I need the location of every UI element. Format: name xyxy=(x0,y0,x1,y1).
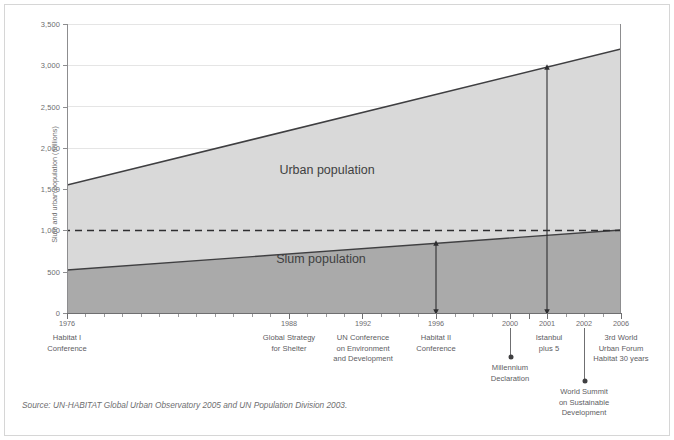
milestone-1988-line-1: Global Strategy xyxy=(263,333,315,344)
source-note: Source: UN-HABITAT Global Urban Observat… xyxy=(22,400,347,410)
y-tick-1500 xyxy=(63,189,67,190)
milestone-2006: 3rd World Urban Forum Habitat 30 years xyxy=(593,333,648,365)
slum-population-label: Slum population xyxy=(276,252,366,266)
callout-leader-2000 xyxy=(510,328,511,355)
x-tick-1981 xyxy=(159,314,160,317)
milestone-2006-line-3: Habitat 30 years xyxy=(593,354,648,365)
x-year-2000: 2000 xyxy=(502,319,518,328)
y-tick-3500 xyxy=(63,24,67,25)
milestone-1976: Habitat I Conference xyxy=(47,333,86,354)
urban-population-label: Urban population xyxy=(279,163,374,177)
x-tick-1980 xyxy=(141,314,142,317)
x-tick-1985 xyxy=(233,314,234,317)
callout-dot-2000 xyxy=(508,355,513,360)
x-tick-2005 xyxy=(603,314,604,317)
x-tick-1995 xyxy=(418,314,419,317)
x-tick-2003 xyxy=(566,314,567,317)
milestone-1992-line-2: on Environment xyxy=(333,344,393,355)
x-year-1976: 1976 xyxy=(59,319,75,328)
y-tick-2000 xyxy=(63,148,67,149)
y-axis-line xyxy=(67,24,68,314)
x-year-2001: 2001 xyxy=(539,319,555,328)
callout-2002-line-1: World Summit xyxy=(559,387,609,398)
callout-dot-2002 xyxy=(582,379,587,384)
x-tick-1990 xyxy=(326,314,327,317)
x-tick-1989 xyxy=(307,314,308,317)
milestone-1996: Habitat II Conference xyxy=(416,333,455,354)
milestone-2001: Istanbul plus 5 xyxy=(536,333,563,354)
x-tick-2004 xyxy=(584,314,585,317)
x-tick-1987 xyxy=(270,314,271,317)
y-label-0: 0 xyxy=(0,309,60,318)
callout-2002-line-2: on Sustainable xyxy=(559,398,609,409)
milestone-2006-line-2: Urban Forum xyxy=(593,344,648,355)
x-year-2006: 2006 xyxy=(613,319,629,328)
chart-figure: Urban population Slum population 3,500 3… xyxy=(0,0,674,440)
x-tick-1979 xyxy=(122,314,123,317)
x-tick-1983 xyxy=(196,314,197,317)
plot-area: Urban population Slum population xyxy=(67,24,621,313)
callout-2000: Millennium Declaration xyxy=(491,363,529,384)
y-axis-title-wrapper: Slum and urban population (millions) xyxy=(22,60,38,300)
milestone-1996-line-2: Conference xyxy=(416,344,455,355)
milestone-2006-line-1: 3rd World xyxy=(593,333,648,344)
x-year-2002: 2002 xyxy=(576,319,592,328)
x-tick-1998 xyxy=(473,314,474,317)
callout-2002: World Summit on Sustainable Development xyxy=(559,387,609,419)
callout-2002-line-3: Development xyxy=(559,408,609,419)
x-year-1992: 1992 xyxy=(355,319,371,328)
x-tick-2001 xyxy=(529,314,530,319)
x-tick-1978 xyxy=(104,314,105,317)
milestone-2001-line-1: Istanbul xyxy=(536,333,563,344)
milestone-1992-line-3: and Development xyxy=(333,354,393,365)
x-year-1996: 1996 xyxy=(428,319,444,328)
x-tick-1993 xyxy=(381,314,382,317)
y-tick-3000 xyxy=(63,65,67,66)
callout-leader-2002 xyxy=(584,328,585,379)
milestone-1988: Global Strategy for Shelter xyxy=(263,333,315,354)
callout-2000-line-2: Declaration xyxy=(491,374,529,385)
y-tick-2500 xyxy=(63,107,67,108)
x-tick-1997 xyxy=(455,314,456,317)
y-axis-title: Slum and urban population (millions) xyxy=(50,80,59,290)
milestone-1996-line-1: Habitat II xyxy=(416,333,455,344)
x-tick-1991 xyxy=(344,314,345,317)
x-tick-1984 xyxy=(215,314,216,317)
x-tick-1986 xyxy=(252,314,253,317)
milestone-1992: UN Conference on Environment and Develop… xyxy=(333,333,393,365)
y-tick-1000 xyxy=(63,230,67,231)
x-year-1988: 1988 xyxy=(281,319,297,328)
callout-2000-line-1: Millennium xyxy=(491,363,529,374)
y-tick-500 xyxy=(63,272,67,273)
milestone-1992-line-1: UN Conference xyxy=(333,333,393,344)
x-tick-1982 xyxy=(178,314,179,317)
milestone-1976-line-2: Conference xyxy=(47,344,86,355)
milestone-1976-line-1: Habitat I xyxy=(47,333,86,344)
y-label-3500: 3,500 xyxy=(0,20,60,29)
x-tick-1999 xyxy=(492,314,493,317)
x-tick-1977 xyxy=(85,314,86,317)
milestone-2001-line-2: plus 5 xyxy=(536,344,563,355)
milestone-1988-line-2: for Shelter xyxy=(263,344,315,355)
x-tick-1994 xyxy=(399,314,400,317)
